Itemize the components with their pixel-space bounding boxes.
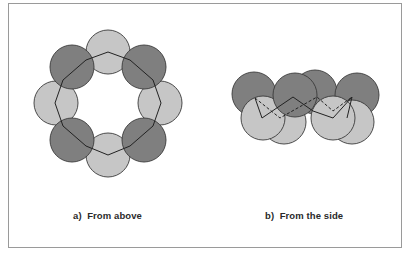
dark-atom — [50, 118, 94, 162]
caption-top-view: a) From above — [73, 210, 142, 221]
dark-atom — [50, 45, 94, 89]
dark-atom — [273, 73, 317, 117]
side-view-ring — [232, 70, 379, 144]
dark-atom — [122, 45, 166, 89]
molecule-diagram — [0, 0, 411, 257]
dark-atom — [122, 118, 166, 162]
top-view-ring — [34, 30, 182, 177]
caption-side-view: b) From the side — [265, 210, 343, 221]
